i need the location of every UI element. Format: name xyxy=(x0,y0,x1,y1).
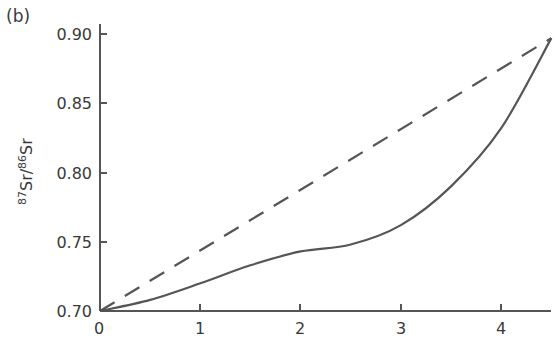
chart: (b) 0.90 0.85 0.80 0.75 0.70 0 1 2 3 4 8… xyxy=(0,0,557,343)
y-tick-label: 0.85 xyxy=(56,94,92,113)
panel-label: (b) xyxy=(6,6,30,26)
y-tick-label: 0.75 xyxy=(56,233,92,252)
y-tick-label: 0.70 xyxy=(56,302,92,321)
x-tick-label: 3 xyxy=(396,319,406,338)
y-axis-label: 87Sr/86Sr xyxy=(16,138,36,205)
dashed-line-series xyxy=(100,38,551,311)
y-ticks xyxy=(100,34,107,242)
x-tick-label: 0 xyxy=(94,319,104,338)
x-tick-label: 2 xyxy=(295,319,305,338)
x-tick-label: 4 xyxy=(496,319,506,338)
y-tick-label: 0.90 xyxy=(56,25,92,44)
y-tick-label: 0.80 xyxy=(56,164,92,183)
y-tick-labels: 0.90 0.85 0.80 0.75 0.70 xyxy=(56,25,92,321)
x-tick-label: 1 xyxy=(195,319,205,338)
x-ticks xyxy=(200,304,501,311)
x-tick-labels: 0 1 2 3 4 xyxy=(94,319,506,338)
